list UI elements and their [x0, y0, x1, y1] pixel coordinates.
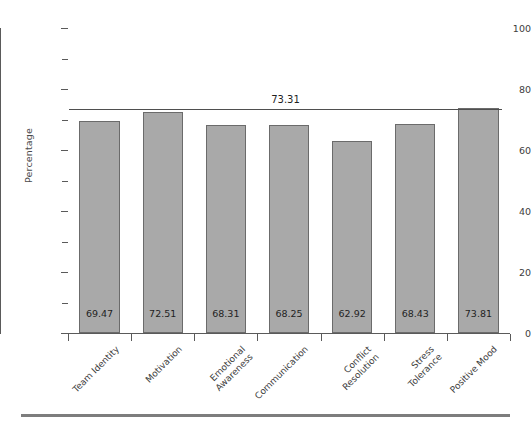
bar-value-label: 72.51: [149, 308, 176, 319]
bar-chart: Percentage 020406080100 69.4772.5168.316…: [0, 0, 531, 431]
reference-line: [69, 109, 501, 110]
bar: [269, 125, 309, 333]
y-axis-title: Percentage: [23, 106, 34, 206]
x-axis-tick: [384, 334, 385, 341]
bar-value-label: 69.47: [86, 308, 113, 319]
y-axis-tick-major: [61, 333, 68, 334]
reference-line-label: 73.31: [271, 94, 300, 105]
x-axis-tick: [510, 334, 511, 341]
x-axis-tick: [321, 334, 322, 341]
y-axis-tick-major: [61, 272, 68, 273]
y-axis-line: [0, 28, 1, 334]
y-axis-tick-minor: [62, 181, 68, 182]
y-axis-tick-major: [61, 211, 68, 212]
bar: [395, 124, 435, 333]
bar-value-label: 68.43: [402, 308, 429, 319]
y-axis-tick-major: [61, 150, 68, 151]
y-axis-tick-minor: [62, 303, 68, 304]
x-axis-tick: [131, 334, 132, 341]
x-axis-line: [68, 333, 510, 334]
y-axis-tick-major: [61, 28, 68, 29]
bar: [143, 112, 183, 333]
x-axis-tick: [194, 334, 195, 341]
y-axis-tick-minor: [62, 59, 68, 60]
x-axis-tick: [68, 334, 69, 341]
bar: [332, 141, 372, 333]
y-axis-tick-label: 100: [485, 23, 531, 34]
bar-value-label: 73.81: [465, 308, 492, 319]
bar-value-label: 62.92: [339, 308, 366, 319]
y-axis-tick-minor: [62, 120, 68, 121]
y-axis-tick-major: [61, 89, 68, 90]
bar-value-label: 68.25: [275, 308, 302, 319]
bar: [206, 125, 246, 333]
y-axis-tick-label: 80: [485, 84, 531, 95]
bar-value-label: 68.31: [212, 308, 239, 319]
footer-rule: [21, 414, 510, 417]
bar: [79, 121, 119, 333]
bar: [458, 108, 498, 333]
y-axis-tick-minor: [62, 242, 68, 243]
x-axis-tick: [257, 334, 258, 341]
x-axis-tick: [447, 334, 448, 341]
